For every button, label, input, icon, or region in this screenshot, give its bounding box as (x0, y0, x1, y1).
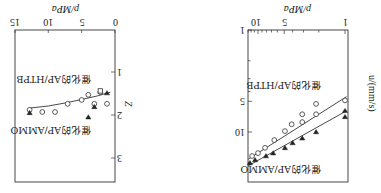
triangle-marker (342, 108, 347, 112)
x-tick-label: 5 (282, 17, 287, 28)
data-points (247, 98, 347, 165)
y-tick-label: 3 (117, 153, 122, 164)
x-axis-label: p/MPa (284, 4, 312, 15)
circle-marker (272, 138, 277, 143)
z-factor-chart: 051015123 催化的AP/AMMO 催化的AP/HTPB p/MPa Z (10, 4, 134, 182)
axis-ticks: 051015123 (10, 17, 122, 164)
y-axis-label: Z (123, 101, 134, 107)
fit-curve (30, 92, 111, 108)
y-axis-label: u/(mm/s) (366, 75, 378, 112)
x-tick-label: 0 (113, 17, 118, 28)
x-tick-label: 5 (80, 17, 85, 28)
y-tick-label: 2 (117, 110, 122, 121)
circle-marker (300, 120, 305, 125)
circle-marker (79, 98, 84, 103)
series-label-ammo: 催化的AP/AMMO (10, 125, 91, 136)
x-axis-label: p/MPa (52, 4, 80, 15)
circle-marker (86, 92, 91, 97)
plot-frame (248, 30, 348, 182)
chart-canvas: 15101510 催化的AP/AMMO 催化的AP/HTPB p/MPa u/(… (0, 0, 381, 193)
y-tick-label: 1 (117, 67, 122, 78)
circle-marker (53, 110, 58, 115)
y-tick-label: 5 (240, 96, 245, 107)
circle-marker (40, 110, 45, 115)
y-tick-label: 10 (235, 127, 245, 138)
series-label-htpb: 催化的AP/HTPB (247, 80, 321, 91)
burning-rate-chart: 15101510 催化的AP/AMMO 催化的AP/HTPB p/MPa u/(… (235, 4, 378, 182)
fit-line (248, 111, 346, 166)
triangle-marker (86, 115, 91, 119)
x-tick-label: 10 (43, 17, 53, 28)
circle-marker (314, 112, 319, 117)
fit-line (248, 97, 346, 160)
figure-rotated-180: 15101510 催化的AP/AMMO 催化的AP/HTPB p/MPa u/(… (0, 0, 381, 193)
circle-marker (250, 154, 255, 159)
triangle-marker (290, 141, 295, 145)
x-tick-label: 15 (10, 17, 20, 28)
circle-marker (300, 112, 305, 117)
fit-lines (248, 97, 346, 166)
series-label-htpb: 催化的AP/HTPB (17, 74, 91, 85)
plot-frame (15, 30, 115, 182)
series-label-ammo: 催化的AP/AMMO (240, 164, 321, 175)
circle-marker (343, 98, 348, 103)
circle-marker (256, 151, 261, 156)
triangle-marker (342, 114, 347, 118)
x-tick-label: 10 (251, 17, 261, 28)
circle-marker (289, 122, 294, 127)
circle-marker (314, 101, 319, 106)
triangle-marker (313, 130, 318, 134)
fit-curve (30, 92, 111, 108)
square-marker (98, 89, 102, 93)
triangle-marker (263, 154, 268, 158)
circle-marker (65, 101, 70, 106)
circle-marker (105, 101, 110, 106)
y-tick-label: 1 (240, 25, 245, 36)
circle-marker (263, 145, 268, 150)
circle-marker (283, 129, 288, 134)
x-tick-label: 1 (343, 17, 348, 28)
data-points (27, 89, 110, 119)
